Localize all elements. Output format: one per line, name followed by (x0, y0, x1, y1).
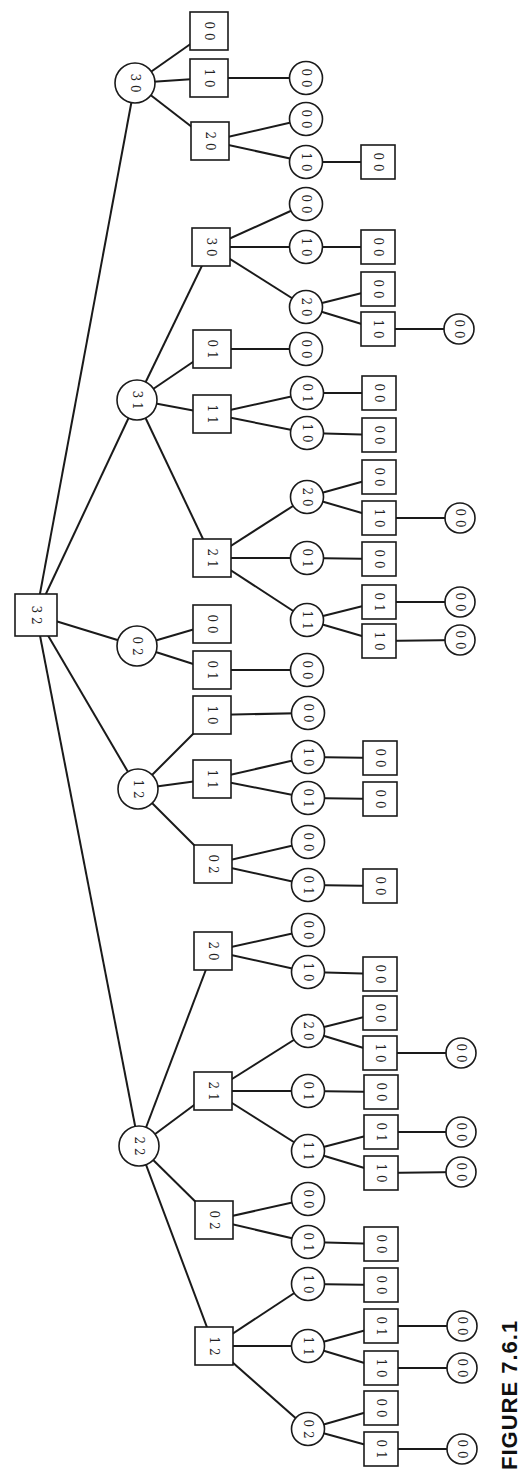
square-node: 0 0 (363, 996, 397, 1030)
node-label: 0 0 (373, 1003, 387, 1022)
square-node: 0 0 (363, 957, 397, 991)
square-node: 0 0 (364, 1075, 398, 1109)
node-label: 0 1 (205, 660, 219, 679)
tree-edge (36, 615, 139, 1146)
square-node: 0 1 (193, 651, 231, 689)
circle-node: 0 0 (290, 333, 323, 366)
node-label: 1 1 (301, 1336, 315, 1355)
node-label: 0 0 (372, 467, 386, 486)
circle-node: 1 0 (290, 146, 323, 179)
node-label: 0 0 (301, 832, 315, 851)
circle-node: 0 0 (444, 314, 474, 344)
node-label: 0 0 (455, 1439, 469, 1458)
square-node: 1 0 (361, 312, 395, 346)
circle-node: 1 0 (292, 956, 325, 989)
node-label: 0 0 (374, 1275, 388, 1294)
node-label: 3 0 (128, 73, 142, 92)
tree-edge (139, 951, 213, 1146)
square-node: 0 0 (364, 1391, 398, 1425)
node-label: 0 0 (371, 237, 385, 256)
square-node: 2 1 (194, 1072, 232, 1110)
node-label: 1 0 (300, 423, 314, 442)
node-label: 0 0 (455, 1316, 469, 1335)
node-label: 0 1 (301, 875, 315, 894)
circle-node: 0 0 (445, 625, 475, 655)
node-label: 0 1 (300, 383, 314, 402)
node-label: 0 0 (454, 1122, 468, 1141)
node-label: 0 0 (373, 876, 387, 895)
circle-node: 0 0 (292, 1183, 325, 1216)
square-node: 1 0 (362, 501, 396, 535)
square-node: 0 0 (364, 1227, 398, 1261)
node-label: 0 0 (372, 383, 386, 402)
node-label: 2 0 (203, 131, 217, 150)
node-label: 1 0 (372, 631, 386, 650)
circle-node: 0 1 (292, 1075, 325, 1108)
circle-node: 0 0 (446, 1038, 476, 1068)
node-label: 0 0 (453, 508, 467, 527)
node-label: 1 0 (301, 962, 315, 981)
node-label: 0 0 (373, 964, 387, 983)
node-label: 3 2 (29, 605, 43, 624)
circle-node: 0 1 (291, 377, 324, 410)
circle-node: 0 0 (292, 914, 325, 947)
node-label: 1 0 (374, 1163, 388, 1182)
node-label: 0 0 (373, 789, 387, 808)
node-label: 0 2 (130, 636, 144, 655)
circle-node: 0 0 (445, 503, 475, 533)
square-node: 1 0 (364, 1156, 398, 1190)
circle-node: 0 0 (290, 188, 323, 221)
node-label: 1 0 (301, 747, 315, 766)
circle-node: 1 1 (291, 604, 324, 637)
square-node: 1 0 (193, 696, 231, 734)
tree-edge (139, 1146, 214, 1346)
node-label: 0 0 (371, 279, 385, 298)
node-label: 0 1 (372, 592, 386, 611)
node-label: 1 2 (207, 1336, 221, 1355)
node-label: 0 0 (372, 549, 386, 568)
square-node: 1 1 (193, 760, 231, 798)
circle-node: 0 2 (292, 1413, 325, 1446)
circle-node: 0 2 (117, 626, 157, 666)
node-label: 0 0 (300, 660, 314, 679)
node-label: 1 1 (301, 1141, 315, 1160)
node-label: 0 0 (371, 152, 385, 171)
circle-node: 0 0 (291, 654, 324, 687)
node-label: 1 1 (300, 610, 314, 629)
square-node: 0 0 (362, 460, 396, 494)
node-label: 0 0 (454, 1043, 468, 1062)
circle-node: 1 0 (291, 417, 324, 450)
square-node: 1 0 (364, 1351, 398, 1385)
node-label: 0 0 (202, 21, 216, 40)
circle-node: 0 0 (447, 1434, 477, 1464)
square-node: 0 0 (190, 12, 228, 50)
square-node: 0 0 (361, 230, 395, 264)
circle-node: 1 1 (292, 1135, 325, 1168)
square-node: 0 2 (194, 845, 232, 883)
node-label: 0 0 (455, 1358, 469, 1377)
node-label: 1 0 (299, 152, 313, 171)
square-node: 3 0 (192, 228, 230, 266)
node-label: 1 0 (202, 68, 216, 87)
circle-node: 2 0 (290, 291, 323, 324)
square-node: 0 1 (193, 330, 231, 368)
node-label: 0 1 (374, 1316, 388, 1335)
node-label: 2 1 (205, 548, 219, 567)
node-label: 2 0 (301, 1021, 315, 1040)
square-node: 0 1 (364, 1309, 398, 1343)
circle-node: 0 0 (292, 697, 325, 730)
node-label: 0 0 (299, 68, 313, 87)
node-label: 0 0 (299, 109, 313, 128)
node-label: 0 1 (301, 1081, 315, 1100)
square-node: 0 0 (362, 376, 396, 410)
node-label: 1 0 (299, 237, 313, 256)
node-label: 0 0 (374, 1234, 388, 1253)
circle-node: 0 0 (292, 826, 325, 859)
node-label: 0 0 (372, 425, 386, 444)
node-label: 0 0 (452, 319, 466, 338)
square-node: 1 0 (362, 624, 396, 658)
node-label: 1 0 (373, 1043, 387, 1062)
node-label: 0 0 (301, 703, 315, 722)
circle-node: 1 1 (292, 1330, 325, 1363)
